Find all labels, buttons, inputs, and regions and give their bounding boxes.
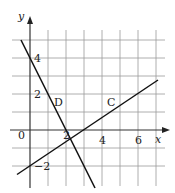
x-tick-6: 6 <box>135 134 142 147</box>
y-tick-4: 4 <box>34 52 41 65</box>
coordinate-graph: y x 0 2 4 6 4 2 −2 D C <box>0 0 175 193</box>
x-tick-4: 4 <box>99 134 106 147</box>
x-tick-2: 2 <box>63 129 70 142</box>
line-d-label: D <box>54 96 63 109</box>
x-axis-arrow-icon <box>162 127 170 133</box>
y-axis-label: y <box>17 10 25 23</box>
x-axis-label: x <box>155 133 162 146</box>
y-axis-arrow-icon <box>27 16 33 24</box>
y-tick-2: 2 <box>34 88 41 101</box>
y-tick-neg2: −2 <box>34 160 50 173</box>
x-axis <box>10 127 170 133</box>
origin-label: 0 <box>18 129 25 142</box>
line-c-label: C <box>107 96 115 109</box>
y-axis <box>27 16 33 188</box>
